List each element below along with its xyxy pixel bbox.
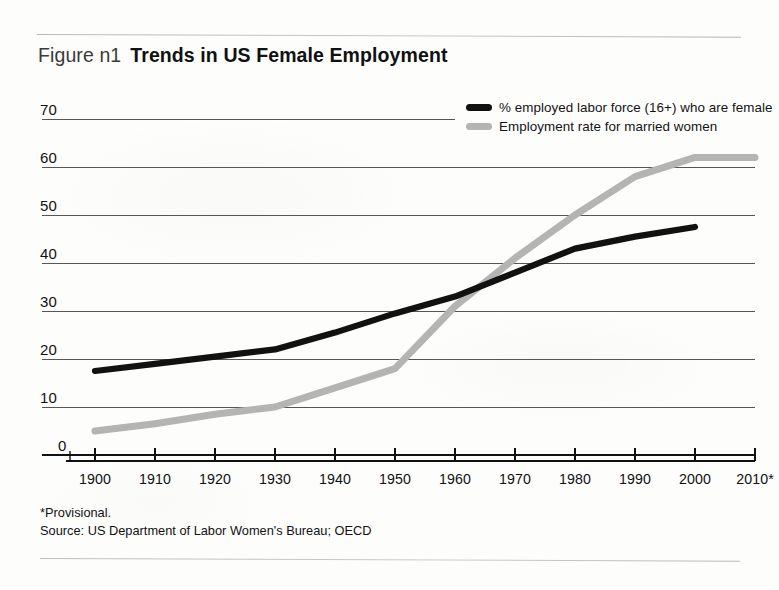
y-axis-tick-label: 20 — [40, 341, 57, 358]
chart-series-line — [95, 157, 755, 431]
y-axis-tick-label: 40 — [40, 245, 57, 262]
x-axis-tick-label: 1950 — [366, 471, 424, 487]
series-group — [95, 157, 755, 431]
x-axis-tick-label: 1900 — [66, 471, 124, 487]
x-axis-tick-label: 2010* — [726, 471, 779, 487]
x-axis-tick-label: 1960 — [426, 471, 484, 487]
footnote-source: Source: US Department of Labor Women's B… — [40, 522, 372, 540]
chart-legend: % employed labor force (16+) who are fem… — [466, 100, 772, 134]
x-axis-tick-label: 1920 — [186, 471, 244, 487]
figure-footnotes: *Provisional. Source: US Department of L… — [40, 504, 372, 540]
y-axis-tick-label: 0 — [58, 437, 67, 454]
legend-label: % employed labor force (16+) who are fem… — [499, 100, 772, 115]
legend-swatch-icon — [466, 123, 492, 130]
x-axis-tick-label: 1910 — [126, 471, 184, 487]
y-axis-tick-label: 70 — [40, 101, 57, 118]
footnote-provisional: *Provisional. — [40, 504, 372, 522]
x-axis-tick-label: 1940 — [306, 471, 364, 487]
x-axis-tick-label: 1980 — [546, 471, 604, 487]
y-axis-tick-label: 10 — [40, 389, 57, 406]
legend-item-black[interactable]: % employed labor force (16+) who are fem… — [466, 100, 772, 115]
x-axis-tick-label: 2000 — [666, 471, 724, 487]
y-axis-tick-label: 60 — [40, 149, 57, 166]
y-axis-tick-label: 50 — [40, 197, 57, 214]
legend-label: Employment rate for married women — [499, 119, 717, 134]
x-axis-tick-label: 1990 — [606, 471, 664, 487]
legend-swatch-icon — [466, 104, 492, 111]
figure-page: Figure n1 Trends in US Female Employment… — [0, 0, 779, 590]
x-axis-tick-label: 1970 — [486, 471, 544, 487]
chart-series-line — [95, 227, 695, 371]
legend-item-gray[interactable]: Employment rate for married women — [466, 119, 772, 134]
line-chart-canvas — [0, 0, 779, 590]
x-axis-tick-label: 1930 — [246, 471, 304, 487]
y-axis-tick-label: 30 — [40, 293, 57, 310]
